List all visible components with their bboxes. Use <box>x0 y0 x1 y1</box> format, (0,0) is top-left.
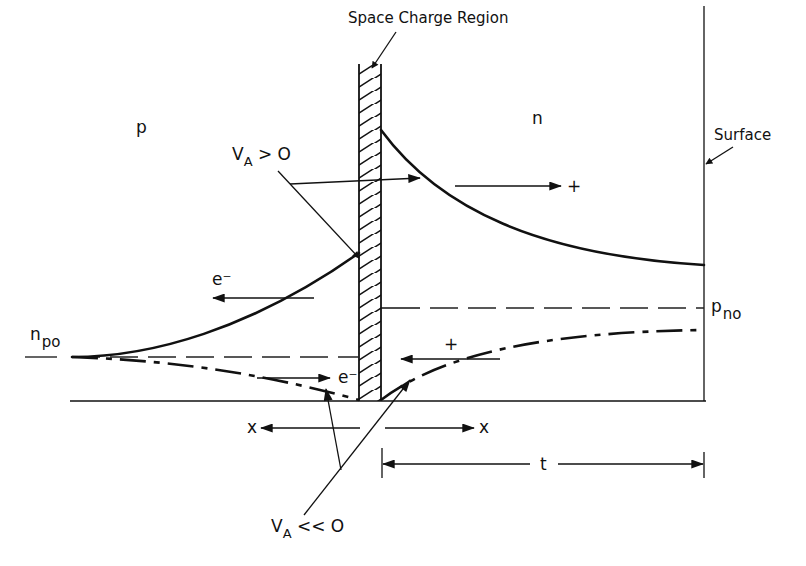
forward-bias-label: VA > O <box>232 144 291 169</box>
surface-label: Surface <box>714 126 771 144</box>
space-charge-region-bar <box>359 64 381 401</box>
n-side-forward-bias-curve <box>381 130 704 265</box>
hole-label-lower: + <box>444 334 458 354</box>
p-region-label: p <box>136 117 147 137</box>
npo-label: npo <box>30 324 60 351</box>
electron-label-upper: e⁻ <box>212 269 231 289</box>
svg-text:pno: pno <box>711 296 741 323</box>
n-side-reverse-bias-curve <box>381 330 704 400</box>
space-charge-region-pointer <box>372 32 396 68</box>
pno-label: pno <box>711 296 741 323</box>
surface-pointer <box>706 147 733 164</box>
forward-bias-pointer-n <box>290 178 420 184</box>
thickness-label: t <box>540 454 547 474</box>
svg-text:npo: npo <box>30 324 60 351</box>
reverse-bias-label: VA << O <box>271 516 344 541</box>
x-right-label: x <box>479 417 489 437</box>
hole-label-upper: + <box>567 176 581 196</box>
n-region-label: n <box>532 108 543 128</box>
electron-label-lower: e⁻ <box>338 367 357 387</box>
space-charge-region-label: Space Charge Region <box>348 9 508 27</box>
svg-text:VA > O: VA > O <box>232 144 291 169</box>
svg-text:VA << O: VA << O <box>271 516 344 541</box>
pn-junction-carrier-diagram: Space Charge Region p n Surface npo pno … <box>0 0 806 566</box>
x-left-label: x <box>247 417 257 437</box>
